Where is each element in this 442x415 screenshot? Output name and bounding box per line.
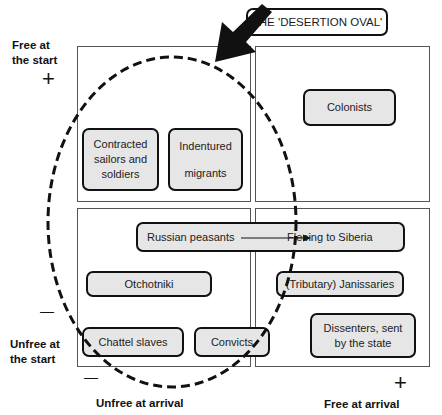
x-minus-sign: — [84,370,98,384]
box-colonists: Colonists [303,89,396,126]
x-plus-sign: + [394,372,407,394]
russian-peasants-label: Russian peasants [147,230,234,245]
box-dissenters-sent-by-state: Dissenters, sent by the state [310,313,416,358]
y-top-label: Free at the start [12,38,57,68]
title-box: THE 'DESERTION OVAL' [246,8,388,36]
y-top-label-line-1: Free at [12,38,57,53]
box-russian-peasants-fleeing: Russian peasants Fleeing to Siberia [136,222,405,252]
box-line: Indentured [179,139,232,154]
y-bottom-label-line-1: Unfree at [10,337,60,352]
box-convicts: Convicts [194,327,270,357]
box-line: Convicts [211,335,253,350]
box-chattel-slaves: Chattel slaves [82,327,184,357]
box-line: by the state [324,336,403,351]
x-right-label: Free at arrival [324,397,399,412]
box-line: Otchotniki [125,277,174,292]
box-line: Contracted [94,137,148,152]
box-line: migrants [179,166,232,181]
box-tributary-janissaries: (Tributary) Janissaries [276,271,404,297]
box-otchotniki: Otchotniki [86,271,212,297]
y-plus-sign: + [42,68,55,90]
box-line: (Tributary) Janissaries [286,277,394,292]
x-left-label: Unfree at arrival [96,396,184,411]
y-bottom-label-line-2: the start [10,352,60,367]
box-line: soldiers [94,167,148,182]
box-indentured-migrants: Indentured migrants [168,128,243,191]
box-line: Chattel slaves [98,335,167,350]
diagram-title: THE 'DESERTION OVAL' [252,16,383,28]
box-line: sailors and [94,152,148,167]
y-bottom-label: Unfree at the start [10,337,60,367]
box-line: Dissenters, sent [324,321,403,336]
fleeing-to-siberia-label: Fleeing to Siberia [287,230,373,245]
box-contracted-sailors-soldiers: Contracted sailors and soldiers [82,128,159,191]
box-line: Colonists [327,100,372,115]
y-minus-sign: — [40,304,54,318]
